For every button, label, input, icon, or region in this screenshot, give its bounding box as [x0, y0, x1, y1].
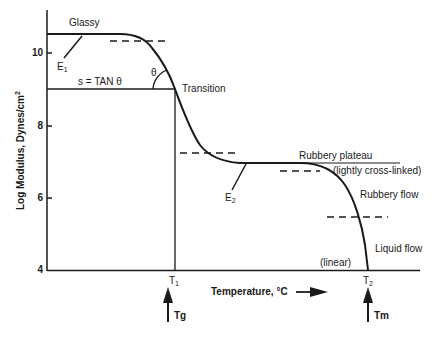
e2-pointer — [232, 164, 246, 190]
y-axis-label: Log Modulus, Dynes/cm2 — [14, 91, 26, 210]
temperature-arrow-head — [310, 287, 328, 297]
e1-pointer — [64, 36, 82, 58]
y-tick-8: 8 — [27, 121, 43, 131]
theta-label: θ — [151, 68, 157, 78]
y-tick-6: 6 — [27, 193, 43, 203]
glassy-label: Glassy — [69, 18, 100, 28]
transition-label: Transition — [182, 84, 226, 94]
tg-arrow-shaft — [167, 300, 169, 322]
rubbery-flow-label: Rubbery flow — [360, 190, 418, 200]
t1-label-sub: 1 — [175, 280, 179, 287]
lightly-crosslinked-label: (lightly cross-linked) — [333, 166, 421, 176]
e1-label: E1 — [57, 62, 68, 73]
e1-label-main: E — [57, 61, 64, 72]
e2-label-main: E — [225, 192, 232, 203]
y-axis-label-sup: 2 — [14, 91, 21, 95]
tg-label: Tg — [174, 311, 186, 321]
liquid-flow-label: Liquid flow — [375, 244, 422, 254]
x-axis-label: Temperature, °C — [211, 287, 288, 297]
linear-label: (linear) — [320, 258, 351, 268]
y-axis-label-text: Log Modulus, Dynes/cm — [15, 95, 26, 210]
y-tick-4: 4 — [27, 265, 43, 275]
e2-label-sub: 2 — [232, 197, 236, 204]
t2-label: T2 — [363, 276, 373, 287]
slope-label: s = TAN θ — [78, 77, 122, 87]
tm-arrow-shaft — [367, 300, 369, 322]
tm-label: Tm — [374, 311, 389, 321]
rubbery-plateau-label: Rubbery plateau — [299, 151, 372, 161]
y-tick-10: 10 — [27, 48, 43, 58]
e1-label-sub: 1 — [64, 66, 68, 73]
e2-label: E2 — [225, 193, 236, 204]
t2-label-sub: 2 — [369, 280, 373, 287]
t1-label: T1 — [169, 276, 179, 287]
